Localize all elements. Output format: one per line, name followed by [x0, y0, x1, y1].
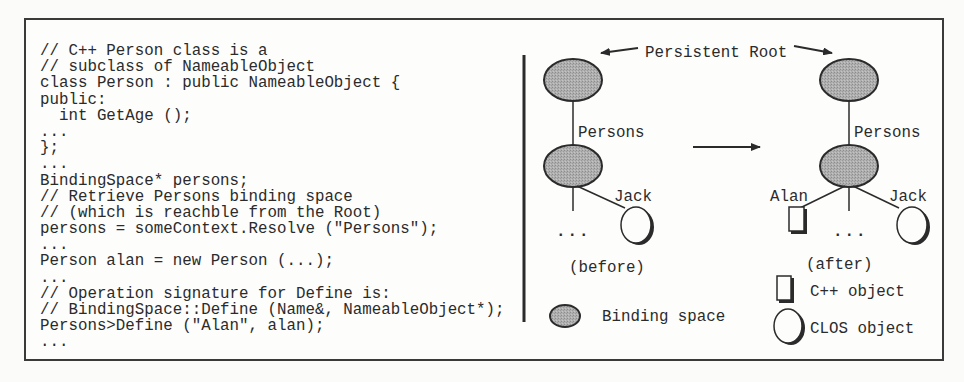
root-arrow-left — [601, 48, 638, 53]
cpp-object-legend-label: C++ object — [810, 283, 905, 301]
before-caption: (before) — [569, 259, 645, 277]
persistent-root-label: Persistent Root — [645, 44, 787, 62]
binding-space-node — [544, 59, 602, 101]
jack-label: Jack — [614, 188, 652, 206]
cpp-object-node — [789, 207, 804, 231]
persons-edge-label: Persons — [578, 124, 644, 142]
legend: Binding space C++ object CLOS object — [550, 276, 914, 345]
cpp-object-legend-icon — [777, 276, 791, 300]
binding-space-legend-label: Binding space — [602, 308, 725, 326]
ellipsis: ... — [556, 223, 590, 241]
binding-space-node — [820, 59, 878, 101]
root-arrow-right — [794, 46, 832, 53]
binding-space-diagram: Persistent Root Persons Jack ... (before… — [0, 0, 964, 382]
clos-object-legend-label: CLOS object — [810, 320, 914, 338]
binding-space-legend-icon — [550, 305, 580, 327]
binding-space-node — [544, 145, 602, 187]
persons-edge-label: Persons — [854, 124, 920, 142]
alan-label: Alan — [770, 188, 808, 206]
jack-label: Jack — [889, 188, 927, 206]
binding-space-node — [820, 145, 878, 187]
before-tree: Persons Jack ... (before) — [544, 59, 654, 277]
after-tree: Persons Alan Jack ... (after) — [770, 59, 930, 274]
ellipsis: ... — [833, 223, 867, 241]
clos-object-node — [897, 207, 927, 243]
clos-object-node — [621, 207, 651, 243]
after-caption: (after) — [806, 256, 872, 274]
clos-object-legend-icon — [774, 309, 802, 343]
